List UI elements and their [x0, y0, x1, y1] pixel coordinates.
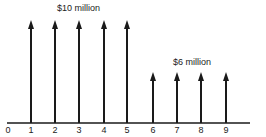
high-amount-label: $10 million [57, 3, 100, 13]
tick-label-3: 3 [76, 125, 81, 135]
arrowhead-icon [150, 72, 156, 81]
tick-label-6: 6 [150, 125, 155, 135]
tick-label-4: 4 [101, 125, 106, 135]
cash-flow-diagram [0, 0, 266, 137]
arrowhead-icon [52, 20, 58, 29]
tick-label-9: 9 [223, 125, 228, 135]
tick-label-1: 1 [28, 125, 33, 135]
low-amount-label: $6 million [173, 57, 211, 67]
arrowhead-icon [174, 72, 180, 81]
tick-label-5: 5 [124, 125, 129, 135]
arrowhead-icon [198, 72, 204, 81]
cash-flow-arrows [28, 20, 229, 123]
arrowhead-icon [28, 20, 34, 29]
arrowhead-icon [124, 20, 130, 29]
tick-label-7: 7 [174, 125, 179, 135]
tick-label-0: 0 [5, 125, 10, 135]
arrowhead-icon [101, 20, 107, 29]
arrowhead-icon [223, 72, 229, 81]
tick-label-2: 2 [52, 125, 57, 135]
arrowhead-icon [76, 20, 82, 29]
tick-label-8: 8 [198, 125, 203, 135]
